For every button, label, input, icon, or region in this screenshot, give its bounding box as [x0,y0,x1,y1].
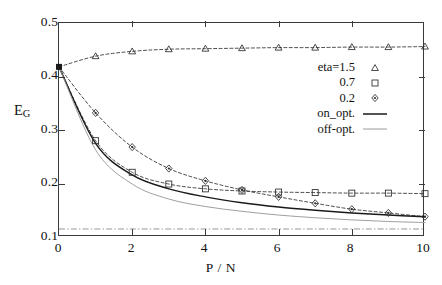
y-tick-label: 0.4 [18,67,58,83]
data-point-triangle [385,44,392,50]
legend-item[interactable]: off-opt. [268,122,388,137]
x-axis-tick-top [279,21,280,27]
y-axis-tick [59,77,65,78]
x-axis-tick [132,229,133,235]
y-tick-label: 0.3 [18,121,58,137]
chart-legend: eta=1.50.70.2on_opt.off-opt. [268,60,388,137]
y-axis-title: EG [14,102,30,119]
legend-symbol-diamond [362,92,388,104]
data-point-diamond [129,144,135,151]
data-point-triangle [239,45,246,51]
y-axis-tick-right [419,184,425,185]
data-point-diamond [166,165,172,172]
chart-figure: 0.5 0.4 0.3 0.2 0.1 EG 0 2 4 6 8 10 P / … [0,0,442,285]
y-axis-tick-right [419,77,425,78]
data-point-diamond [202,177,208,184]
legend-symbol-square [362,77,388,89]
y-axis-tick [59,130,65,131]
data-point-filled-square [56,64,62,70]
x-axis-tick [352,229,353,235]
y-tick-label: 0.5 [18,14,58,30]
legend-swatch [362,76,388,90]
legend-item[interactable]: 0.2 [268,91,388,106]
legend-label: off-opt. [317,122,362,137]
data-point-diamond [372,95,378,102]
y-tick-label: 0.2 [18,174,58,190]
data-point-triangle [275,44,282,50]
legend-swatch [362,61,388,75]
x-tick-label: 4 [184,240,224,256]
legend-swatch [362,107,388,121]
data-point-triangle [312,44,319,50]
legend-item[interactable]: eta=1.5 [268,60,388,75]
legend-label: eta=1.5 [318,60,362,75]
x-axis-tick-top [132,21,133,27]
x-axis-tick [205,229,206,235]
legend-symbol-thin [362,123,388,135]
y-axis-title-base: E [14,102,23,118]
legend-swatch [362,122,388,136]
x-axis-tick [279,229,280,235]
x-axis-tick-top [352,21,353,27]
x-tick-label: 10 [403,240,442,256]
x-tick-label: 0 [38,240,78,256]
x-axis-title: P / N [0,260,442,276]
data-point-triangle [422,43,429,49]
legend-swatch [362,91,388,105]
y-axis-title-sub: G [23,108,31,119]
data-point-triangle [202,45,209,51]
x-tick-label: 6 [257,240,297,256]
data-point-diamond [239,186,245,193]
legend-label: 0.7 [339,75,362,90]
legend-label: 0.2 [339,91,362,106]
data-point-square [372,80,378,86]
x-tick-label: 2 [111,240,151,256]
legend-symbol-solid [362,108,388,120]
legend-item[interactable]: 0.7 [268,75,388,90]
legend-label: on_opt. [317,106,362,121]
y-axis-tick [59,184,65,185]
legend-item[interactable]: on_opt. [268,106,388,121]
data-point-triangle [348,44,355,50]
data-point-triangle [372,64,379,70]
legend-symbol-triangle [362,62,388,74]
y-axis-tick-right [419,130,425,131]
x-axis-tick-top [205,21,206,27]
x-tick-label: 8 [330,240,370,256]
